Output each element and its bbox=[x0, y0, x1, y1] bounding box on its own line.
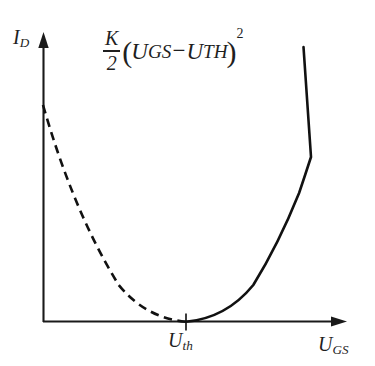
exponent: 2 bbox=[237, 27, 244, 41]
fraction-denominator: 2 bbox=[105, 52, 119, 74]
term-threshold-var: U bbox=[186, 40, 203, 63]
term-threshold-subscript: TH bbox=[203, 42, 228, 61]
threshold-tick-label: Uth bbox=[168, 330, 193, 352]
minus-operator: − bbox=[172, 39, 185, 62]
y-axis-label: ID bbox=[13, 27, 29, 49]
term-gate-source-var: U bbox=[131, 40, 148, 63]
x-axis-label: UGS bbox=[318, 334, 349, 356]
y-axis bbox=[38, 32, 48, 322]
curve-solid-branch bbox=[186, 47, 311, 322]
x-axis-label-subscript: GS bbox=[333, 342, 349, 357]
y-axis-label-var: I bbox=[13, 26, 20, 48]
coefficient-fraction: K 2 bbox=[103, 28, 120, 74]
square-law-equation: K 2 ( UGS − UTH ) 2 bbox=[103, 29, 244, 75]
threshold-tick-label-var: U bbox=[168, 329, 182, 351]
paren-close: ) bbox=[227, 37, 237, 67]
fraction-numerator: K bbox=[103, 28, 120, 50]
mosfet-transfer-characteristic-figure: ID UGS Uth K 2 ( UGS − UTH ) 2 bbox=[0, 0, 375, 366]
y-axis-label-subscript: D bbox=[20, 35, 30, 50]
x-axis-label-var: U bbox=[318, 333, 332, 355]
term-gate-source-subscript: GS bbox=[148, 42, 171, 61]
threshold-tick-label-subscript: th bbox=[183, 338, 193, 353]
curve-dashed-branch bbox=[43, 105, 186, 322]
paren-open: ( bbox=[122, 37, 132, 67]
